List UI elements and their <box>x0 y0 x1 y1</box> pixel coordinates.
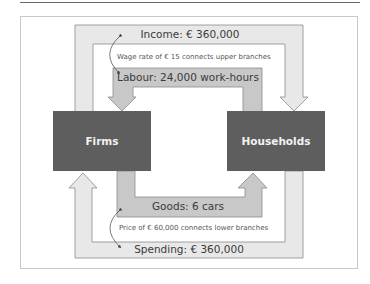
lower-connector-note: Price of € 60,000 connects lower branche… <box>119 224 268 232</box>
income-label: Income: € 360,000 <box>141 28 240 40</box>
circular-flow-diagram: Firms Households Income: € 360,000 Labou… <box>0 0 370 284</box>
spending-label: Spending: € 360,000 <box>134 243 244 255</box>
firms-label: Firms <box>85 135 118 147</box>
upper-connector-note: Wage rate of € 15 connects upper branche… <box>117 53 271 61</box>
households-label: Households <box>242 135 311 147</box>
goods-label: Goods: 6 cars <box>152 200 224 212</box>
labour-label: Labour: 24,000 work-hours <box>117 71 259 83</box>
